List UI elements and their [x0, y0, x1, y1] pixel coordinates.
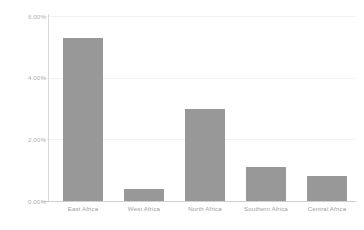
y-tick-label-6: 6.00% — [2, 13, 46, 20]
x-label-east-africa: East Africa — [53, 204, 113, 213]
bar-slot-west-africa — [124, 16, 164, 201]
bar-slot-north-africa — [185, 16, 225, 201]
x-label-north-africa: North Africa — [175, 204, 235, 213]
footer-clipped-text — [0, 219, 364, 230]
y-tick-label-2: 2.00% — [2, 136, 46, 143]
y-tick-label-0: 0.00% — [2, 198, 46, 205]
bar-east-africa[interactable] — [63, 38, 103, 201]
bar-southern-africa[interactable] — [246, 167, 286, 201]
bar-central-africa[interactable] — [307, 176, 347, 201]
bar-north-africa[interactable] — [185, 109, 225, 202]
bar-chart: 6.00% 4.00% 2.00% 0.00% East Africa West… — [0, 0, 364, 230]
x-label-central-africa: Central Africa — [296, 204, 358, 213]
x-axis-line — [42, 201, 356, 202]
y-tick-label-4: 4.00% — [2, 74, 46, 81]
x-axis-labels: East Africa West Africa North Africa Sou… — [48, 204, 356, 216]
bar-slot-southern-africa — [246, 16, 286, 201]
x-label-west-africa: West Africa — [114, 204, 174, 213]
bar-slot-central-africa — [307, 16, 347, 201]
bar-west-africa[interactable] — [124, 189, 164, 201]
x-label-southern-africa: Southern Africa — [234, 204, 298, 213]
bar-series — [48, 16, 356, 201]
bar-slot-east-africa — [63, 16, 103, 201]
